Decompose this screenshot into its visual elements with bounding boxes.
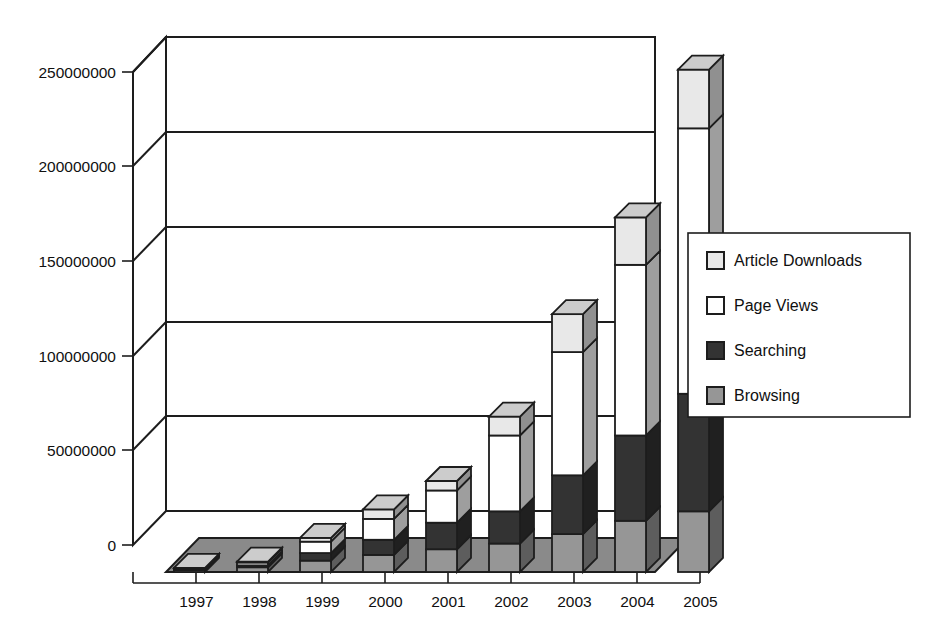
x-tick-label-2000: 2000 xyxy=(368,593,403,610)
legend-item-searching[interactable]: Searching xyxy=(707,342,806,359)
segment-side-face xyxy=(646,421,660,520)
segment-front-face xyxy=(300,553,331,561)
legend: Article Downloads Page Views Searching B… xyxy=(688,233,910,417)
column-2003 xyxy=(552,300,597,572)
segment-front-face xyxy=(615,435,646,520)
stacked-column-chart: 250000000 200000000 150000000 100000000 … xyxy=(0,0,926,630)
x-tick-label-2005: 2005 xyxy=(683,593,717,610)
y-tick-label: 200000000 xyxy=(38,158,116,175)
segment-front-face xyxy=(426,490,457,522)
segment-front-face xyxy=(552,314,583,352)
segment-side-face xyxy=(646,251,660,436)
x-tick-label-2003: 2003 xyxy=(557,593,591,610)
legend-swatch-article-downloads xyxy=(707,252,724,269)
x-tick-label-1997: 1997 xyxy=(179,593,213,610)
y-tick-label: 50000000 xyxy=(47,442,116,459)
legend-label-article-downloads: Article Downloads xyxy=(734,252,862,269)
y-tick-label: 100000000 xyxy=(38,348,116,365)
segment-front-face xyxy=(426,523,457,550)
segment-front-face xyxy=(552,475,583,534)
plot-left-wall xyxy=(133,37,166,545)
legend-swatch-page-views xyxy=(707,297,724,314)
segment-front-face xyxy=(489,544,520,572)
x-tick-label-2004: 2004 xyxy=(620,593,655,610)
segment-front-face xyxy=(678,70,709,129)
legend-label-page-views: Page Views xyxy=(734,297,818,314)
segment-page-views-2004 xyxy=(615,251,660,436)
segment-front-face xyxy=(552,534,583,572)
y-tick-label: 150000000 xyxy=(38,253,116,270)
legend-label-searching: Searching xyxy=(734,342,806,359)
segment-front-face xyxy=(489,417,520,436)
segment-front-face xyxy=(363,555,394,572)
x-tick-label-2002: 2002 xyxy=(494,593,528,610)
column-2000 xyxy=(363,495,408,572)
legend-swatch-searching xyxy=(707,342,724,359)
segment-side-face xyxy=(583,338,597,475)
segment-page-views-2003 xyxy=(552,338,597,475)
segment-front-face xyxy=(615,217,646,264)
x-axis-labels: 199719981999200020012002200320042005 xyxy=(179,593,717,610)
column-1999 xyxy=(300,524,345,572)
segment-front-face xyxy=(300,561,331,572)
y-tick-label: 250000000 xyxy=(38,64,116,81)
segment-front-face xyxy=(489,511,520,543)
legend-item-page-views[interactable]: Page Views xyxy=(707,297,818,314)
legend-label-browsing: Browsing xyxy=(734,387,800,404)
x-axis xyxy=(133,572,700,583)
segment-front-face xyxy=(426,481,457,490)
segment-side-face xyxy=(520,421,534,511)
column-2002 xyxy=(489,403,534,572)
legend-swatch-browsing xyxy=(707,387,724,404)
column-2004 xyxy=(615,203,660,572)
segment-front-face xyxy=(363,519,394,540)
segment-front-face xyxy=(489,435,520,511)
y-axis-labels: 250000000 200000000 150000000 100000000 … xyxy=(38,64,116,554)
chart-container: 250000000 200000000 150000000 100000000 … xyxy=(0,0,926,630)
segment-front-face xyxy=(363,509,394,518)
segment-front-face xyxy=(615,521,646,572)
segment-front-face xyxy=(426,549,457,572)
segment-front-face xyxy=(615,265,646,436)
x-tick-label-2001: 2001 xyxy=(431,593,465,610)
column-2001 xyxy=(426,467,471,572)
segment-front-face xyxy=(363,540,394,555)
x-tick-label-1998: 1998 xyxy=(242,593,276,610)
y-tick-label: 0 xyxy=(107,537,116,554)
segment-front-face xyxy=(300,542,331,553)
segment-front-face xyxy=(552,352,583,475)
x-tick-label-1999: 1999 xyxy=(305,593,339,610)
segment-front-face xyxy=(678,511,709,572)
legend-item-browsing[interactable]: Browsing xyxy=(707,387,800,404)
y-axis-ticks xyxy=(122,72,133,545)
